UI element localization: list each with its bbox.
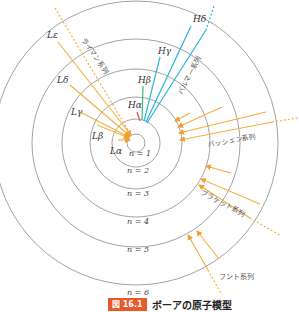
label-h-gamma: Hγ	[157, 46, 172, 56]
label-l-beta: Lβ	[91, 131, 103, 141]
label-h-delta: Hδ	[192, 14, 206, 24]
orbit-labels: n = 1 n = 2 n = 3 n = 4 n = 5 n = 6	[127, 149, 151, 297]
balmer-line-alpha	[137, 112, 140, 121]
brackett-line-1	[206, 166, 231, 173]
label-n3: n = 3	[127, 189, 149, 198]
label-l-epsilon: Lε	[46, 30, 58, 40]
balmer-line-epsilon	[147, 30, 206, 123]
lyman-line-infinite	[55, 8, 131, 135]
label-l-gamma: Lγ	[70, 107, 83, 117]
label-brackett-series: ブラケット系列	[199, 188, 246, 219]
label-n4: n = 4	[127, 217, 149, 226]
caption-title: ボーアの原子模型	[152, 297, 232, 312]
label-l-delta: Lδ	[56, 75, 68, 85]
label-n6: n = 6	[127, 288, 149, 297]
label-h-beta: Hβ	[137, 75, 151, 85]
label-n5: n = 5	[127, 245, 149, 254]
balmer-line-beta	[142, 86, 143, 120]
label-paschen-series: パッシェン系列	[207, 132, 257, 149]
balmer-line-infinite	[206, 6, 214, 30]
lyman-line-labels: Lε Lδ Lγ Lβ Lα	[46, 30, 122, 156]
label-balmer-series: バルマー系列	[176, 54, 203, 96]
label-lyman-series: ライマン系列	[79, 36, 110, 76]
pfund-line-1	[197, 231, 219, 259]
label-pfund-series: フント系列	[219, 272, 254, 281]
figure-caption: 図 16.1 ボーアの原子模型	[108, 297, 232, 311]
label-h-alpha: Hα	[127, 100, 142, 110]
label-n1: n = 1	[129, 149, 151, 158]
caption-number: 図 16.1	[108, 298, 147, 311]
orbit-n3	[90, 97, 182, 189]
pfund-series-lines	[188, 231, 222, 295]
paschen-line-3	[179, 112, 266, 133]
balmer-line-gamma	[144, 57, 160, 121]
label-l-alpha: Lα	[109, 146, 122, 156]
label-n2: n = 2	[127, 166, 149, 175]
bohr-atom-diagram: Lε Lδ Lγ Lβ Lα Hα Hβ Hγ Hδ ライマン系列 バルマー系列…	[0, 0, 299, 312]
paschen-line-1	[175, 113, 190, 121]
lyman-line-gamma	[80, 112, 129, 137]
brackett-line-infinite	[250, 218, 281, 236]
lyman-series-lines	[55, 8, 131, 140]
